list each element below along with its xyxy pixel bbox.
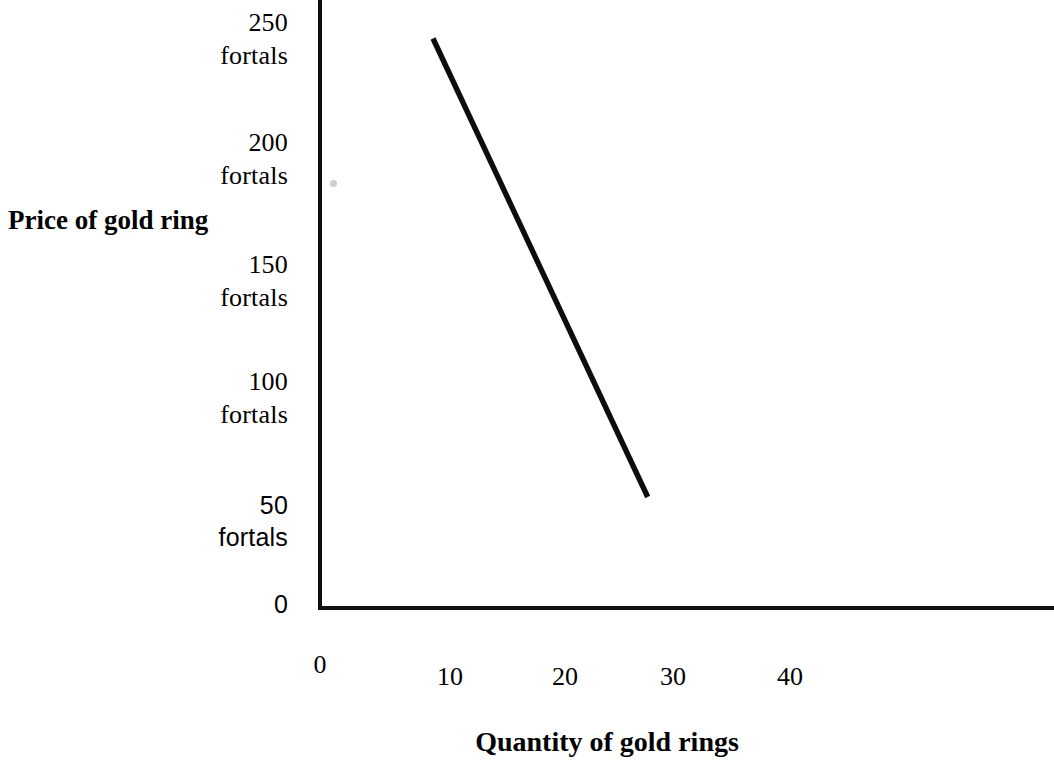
y-axis-title: Price of gold ring xyxy=(8,205,208,236)
y-tick-value: 250 xyxy=(58,6,288,39)
y-axis-line xyxy=(318,0,322,610)
y-tick-label-0: 0 xyxy=(58,588,288,620)
y-tick-value: 50 xyxy=(58,489,288,521)
x-tick-label-10: 10 xyxy=(405,662,495,692)
x-axis-title: Quantity of gold rings xyxy=(0,726,1054,758)
y-tick-value: 200 xyxy=(58,126,288,159)
y-tick-label-50: 50 fortals xyxy=(58,489,288,553)
x-tick-label-0: 0 xyxy=(275,650,365,680)
y-tick-label-100: 100 fortals xyxy=(58,365,288,432)
scan-artifact-speck xyxy=(330,180,337,187)
y-tick-unit: fortals xyxy=(58,521,288,553)
x-axis-line xyxy=(318,606,1054,610)
y-tick-unit: fortals xyxy=(58,159,288,192)
y-tick-value: 100 xyxy=(58,365,288,398)
demand-curve-figure: 250 fortals 200 fortals 150 fortals 100 … xyxy=(0,0,1054,767)
y-tick-value: 0 xyxy=(58,588,288,620)
y-tick-label-150: 150 fortals xyxy=(58,248,288,315)
demand-curve-line xyxy=(433,39,648,498)
y-tick-unit: fortals xyxy=(58,281,288,314)
y-tick-label-200: 200 fortals xyxy=(58,126,288,193)
y-tick-label-250: 250 fortals xyxy=(58,6,288,73)
x-tick-label-30: 30 xyxy=(628,662,718,692)
x-axis-title-text: Quantity of gold rings xyxy=(475,726,739,757)
y-tick-value: 150 xyxy=(58,248,288,281)
y-tick-unit: fortals xyxy=(58,398,288,431)
y-tick-unit: fortals xyxy=(58,39,288,72)
x-tick-label-20: 20 xyxy=(520,662,610,692)
x-tick-label-40: 40 xyxy=(745,662,835,692)
